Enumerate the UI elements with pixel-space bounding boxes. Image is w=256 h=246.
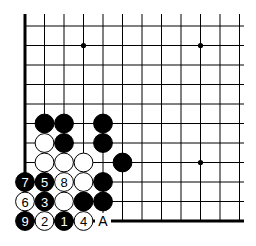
white-stone (35, 153, 54, 172)
white-stone (74, 173, 93, 192)
move-number: 5 (41, 175, 48, 190)
black-stone (55, 114, 74, 133)
white-stone (35, 134, 54, 153)
move-number: 2 (41, 214, 48, 229)
black-stone (113, 153, 132, 172)
move-number: 3 (41, 195, 48, 210)
move-number: 6 (21, 195, 28, 210)
move-number: 7 (21, 175, 28, 190)
move-number: 4 (80, 214, 87, 229)
hoshi-point (198, 43, 203, 48)
move-number: 9 (21, 214, 28, 229)
move-number: 8 (60, 175, 67, 190)
black-stone (74, 192, 93, 211)
white-stone (74, 153, 93, 172)
white-stone (55, 192, 74, 211)
black-stone (35, 114, 54, 133)
move-number: 1 (60, 214, 67, 229)
black-stone (94, 114, 113, 133)
black-stone (94, 192, 113, 211)
mark-label-a: A (98, 213, 108, 229)
hoshi-point (81, 43, 86, 48)
black-stone (94, 173, 113, 192)
white-stone (55, 153, 74, 172)
black-stone (55, 134, 74, 153)
go-board: A758639214 (0, 0, 256, 246)
hoshi-point (198, 160, 203, 165)
black-stone (94, 134, 113, 153)
